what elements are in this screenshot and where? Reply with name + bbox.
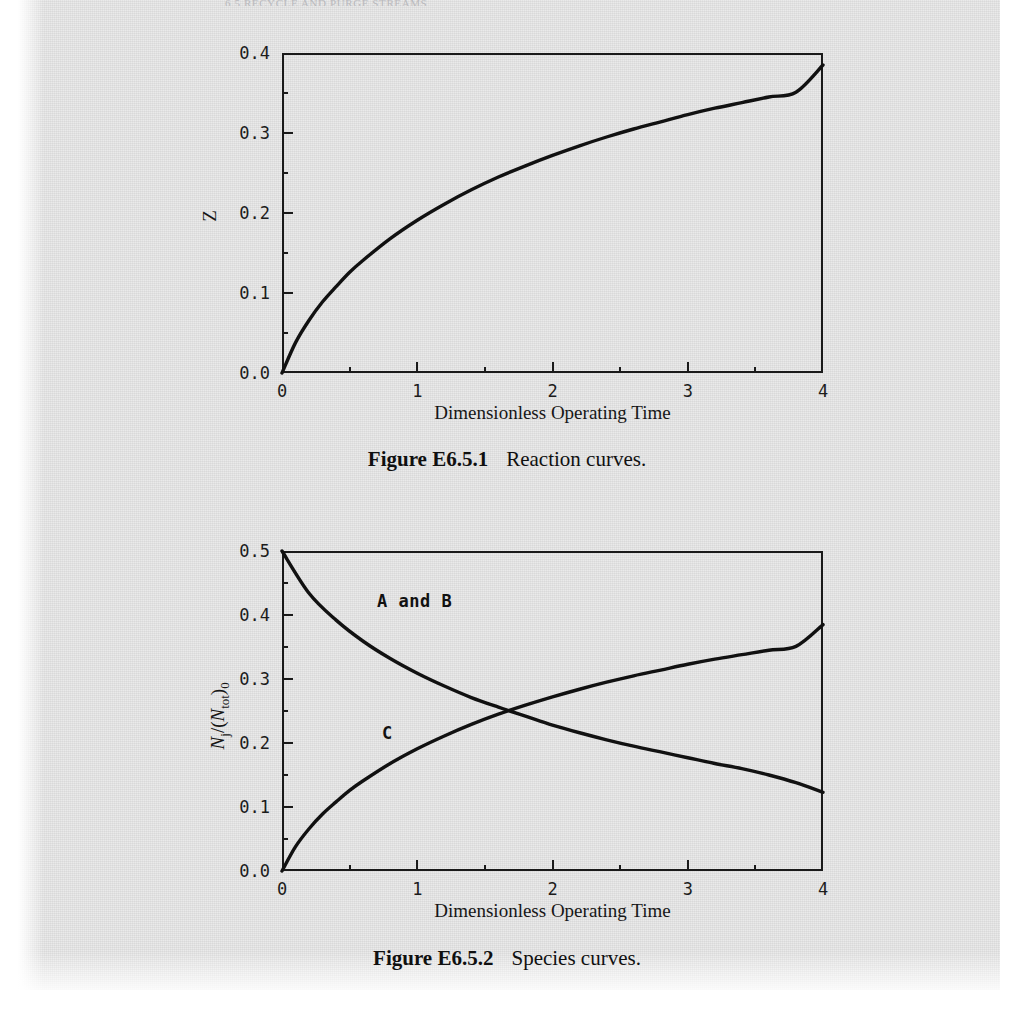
x-tick-label: 4 xyxy=(818,879,828,899)
x-axis-title-2: Dimensionless Operating Time xyxy=(282,900,823,922)
y-major-tick xyxy=(282,742,293,744)
y-tick-label: 0.0 xyxy=(192,861,270,881)
y-tick-label: 0.4 xyxy=(192,605,270,625)
scanned-textbook-page: 6.5 RECYCLE AND PURGE STREAMS 0.00.10.20… xyxy=(0,0,1014,1024)
x-minor-tick xyxy=(619,865,621,871)
y-tick-label: 0.1 xyxy=(192,797,270,817)
x-tick-label: 2 xyxy=(547,879,557,899)
y-major-tick xyxy=(282,678,293,680)
y-major-tick xyxy=(282,614,293,616)
x-major-tick xyxy=(552,860,554,871)
x-tick-label: 3 xyxy=(683,879,693,899)
y-tick-label: 0.5 xyxy=(192,541,270,561)
x-major-tick xyxy=(416,860,418,871)
y-minor-tick xyxy=(282,838,288,840)
figure-caption-2: Figure E6.5.2Species curves. xyxy=(0,946,1014,971)
figure-caption-label-2: Figure E6.5.2 xyxy=(373,946,493,970)
annotation-c: C xyxy=(382,723,393,743)
curve-c xyxy=(282,625,823,871)
x-minor-tick xyxy=(754,865,756,871)
annotation-a-and-b: A and B xyxy=(377,591,452,611)
y-major-tick xyxy=(282,806,293,808)
x-tick-label: 1 xyxy=(412,879,422,899)
x-minor-tick xyxy=(349,865,351,871)
plot-canvas-2 xyxy=(282,551,823,871)
y-minor-tick xyxy=(282,582,288,584)
y-axis-title-2: Nj/(Ntot)0 xyxy=(207,646,233,786)
x-tick-label: 0 xyxy=(277,879,287,899)
figure-caption-text-2: Species curves. xyxy=(511,946,640,970)
y-minor-tick xyxy=(282,646,288,648)
curve-a-and-b xyxy=(282,551,823,792)
figure-e6-5-2: 0.00.10.20.30.40.5 01234 Nj/(Ntot)0 A an… xyxy=(0,0,1014,1024)
y-minor-tick xyxy=(282,710,288,712)
x-minor-tick xyxy=(484,865,486,871)
x-major-tick xyxy=(687,860,689,871)
y-minor-tick xyxy=(282,774,288,776)
